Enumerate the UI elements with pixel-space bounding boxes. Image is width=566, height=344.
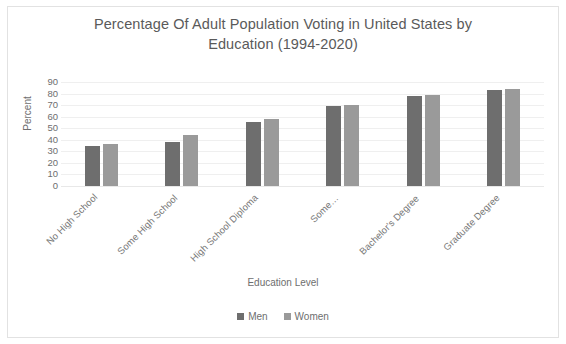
bar-group (165, 82, 198, 186)
bar-men[interactable] (407, 96, 422, 186)
bar-women[interactable] (103, 144, 118, 186)
y-axis-tick-label: 0 (36, 181, 58, 191)
bar-men[interactable] (487, 90, 502, 186)
bar-women[interactable] (505, 89, 520, 186)
legend-item[interactable]: Women (284, 311, 329, 322)
y-axis-tick-labels: 9080706050403020100 (36, 76, 58, 192)
y-axis-tick-label: 90 (36, 77, 58, 87)
gridline (61, 140, 544, 141)
legend-swatch-icon (237, 313, 244, 320)
y-axis-tick-label: 60 (36, 112, 58, 122)
y-axis-tick-label: 10 (36, 169, 58, 179)
bar-group (246, 82, 279, 186)
x-axis-category-label: No High School (44, 192, 99, 247)
x-axis-title: Education Level (40, 277, 526, 288)
legend-swatch-icon (284, 313, 291, 320)
y-axis-tick-label: 50 (36, 123, 58, 133)
gridline (61, 117, 544, 118)
y-axis-tick-label: 20 (36, 158, 58, 168)
plot-area (61, 82, 544, 186)
gridline (61, 151, 544, 152)
x-axis-category-labels: No High SchoolSome High SchoolHigh Schoo… (61, 188, 544, 268)
x-axis-baseline (61, 186, 544, 187)
bar-group (85, 82, 118, 186)
bar-women[interactable] (425, 95, 440, 186)
y-axis-tick-label: 70 (36, 100, 58, 110)
gridline (61, 105, 544, 106)
bar-group (326, 82, 359, 186)
bar-women[interactable] (183, 135, 198, 186)
x-axis-category-label: High School Diploma (188, 192, 260, 264)
bar-men[interactable] (326, 106, 341, 186)
bar-men[interactable] (85, 146, 100, 186)
x-axis-category-label: Some High School (115, 192, 180, 257)
y-axis-tick-label: 40 (36, 135, 58, 145)
bar-women[interactable] (264, 119, 279, 186)
bar-men[interactable] (165, 142, 180, 186)
y-axis-title: Percent (22, 84, 33, 144)
y-axis-tick-label: 30 (36, 146, 58, 156)
x-axis-category-label: Graduate Degree (441, 192, 502, 253)
plot-wrapper: Percent 9080706050403020100 No High Scho… (0, 0, 566, 344)
chart-container: Percentage Of Adult Population Voting in… (0, 0, 566, 344)
x-axis-category-label: Some… (308, 192, 340, 224)
x-axis-category-label: Bachelor's Degree (357, 192, 421, 256)
bar-group (487, 82, 520, 186)
gridline (61, 128, 544, 129)
bar-group (407, 82, 440, 186)
gridline (61, 82, 544, 83)
bar-women[interactable] (344, 105, 359, 186)
legend-label: Men (248, 311, 267, 322)
gridline (61, 94, 544, 95)
y-axis-tick-label: 80 (36, 89, 58, 99)
gridline (61, 174, 544, 175)
legend-item[interactable]: Men (237, 311, 267, 322)
chart-legend: MenWomen (40, 311, 526, 322)
gridline (61, 163, 544, 164)
bar-men[interactable] (246, 122, 261, 186)
legend-label: Women (295, 311, 329, 322)
